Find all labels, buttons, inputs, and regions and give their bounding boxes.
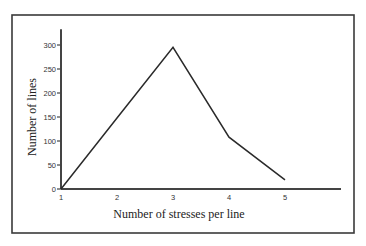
y-tick-label: 150 xyxy=(43,113,56,122)
x-axis-title: Number of stresses per line xyxy=(113,207,244,221)
x-tick-label: 3 xyxy=(171,193,175,202)
x-tick-label: 5 xyxy=(283,193,287,202)
axes xyxy=(61,29,341,189)
y-tick-label: 50 xyxy=(48,161,56,170)
x-tick-label: 4 xyxy=(227,193,231,202)
x-tick-label: 2 xyxy=(115,193,119,202)
y-tick-label: 300 xyxy=(43,41,56,50)
y-tick-label: 200 xyxy=(43,89,56,98)
y-tick-label: 100 xyxy=(43,137,56,146)
y-tick-label: 0 xyxy=(52,185,56,194)
x-ticks: 12345 xyxy=(59,193,287,202)
y-tick-label: 250 xyxy=(43,65,56,74)
series xyxy=(61,47,285,189)
series-line xyxy=(61,47,285,189)
y-ticks: 050100150200250300 xyxy=(43,41,61,194)
line-chart: 050100150200250300 12345 Number of stres… xyxy=(0,0,366,246)
chart-frame xyxy=(12,15,354,233)
y-axis-title: Number of lines xyxy=(25,78,39,156)
x-tick-label: 1 xyxy=(59,193,63,202)
